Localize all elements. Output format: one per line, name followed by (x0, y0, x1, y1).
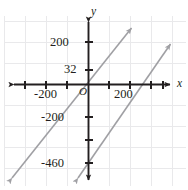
line-1 (12, 28, 132, 178)
y-tick-label-neg200: -200 (41, 111, 64, 124)
coordinate-graph: -200 200 200 32 -200 -460 O x y (0, 0, 188, 190)
origin-label: O (79, 86, 87, 97)
gridlines (4, 16, 186, 186)
plotted-lines (12, 28, 171, 178)
y-axis-label: y (91, 6, 96, 18)
x-tick-label-200: 200 (114, 88, 133, 101)
x-tick-label-neg200: -200 (34, 88, 57, 101)
graph-canvas (0, 0, 188, 190)
y-tick-label-200: 200 (50, 36, 69, 49)
y-tick-label-neg460: -460 (41, 157, 64, 170)
axes (14, 22, 170, 180)
x-axis-label: x (177, 78, 182, 90)
y-tick-label-32: 32 (64, 63, 77, 76)
line-2 (78, 44, 171, 178)
